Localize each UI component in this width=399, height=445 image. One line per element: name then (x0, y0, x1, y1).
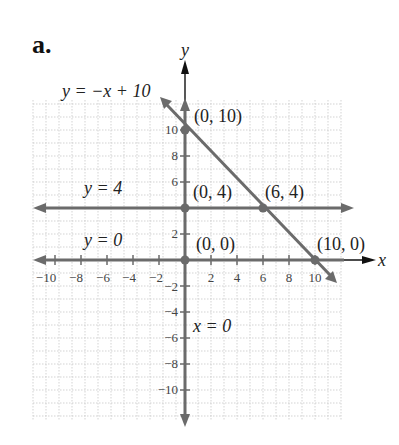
svg-text:−6: −6 (164, 330, 178, 345)
svg-text:10: 10 (309, 270, 322, 285)
svg-text:−4: −4 (164, 304, 178, 319)
svg-text:8: 8 (172, 148, 179, 163)
x-axis-label: x (377, 250, 386, 270)
point-label-0-4: (0, 4) (193, 182, 232, 203)
svg-text:−10: −10 (36, 270, 56, 285)
svg-text:−6: −6 (96, 270, 110, 285)
equation-label-line2: y = 4 (82, 178, 122, 198)
equation-label-line3: y = 0 (82, 230, 122, 250)
x-tick-labels: −10 −8 −6 −4 −2 2 4 6 8 10 (36, 270, 322, 285)
svg-text:−2: −2 (149, 270, 163, 285)
svg-text:−2: −2 (164, 279, 178, 294)
svg-text:2: 2 (208, 270, 215, 285)
x-axis-arrow-icon (362, 256, 376, 264)
svg-text:10: 10 (165, 122, 178, 137)
point-label-6-4: (6, 4) (265, 182, 304, 203)
point-label-10-0: (10, 0) (317, 234, 365, 255)
svg-text:8: 8 (286, 270, 293, 285)
svg-text:−10: −10 (158, 382, 178, 397)
graph-lines (42, 105, 344, 418)
equation-label-line4: x = 0 (192, 316, 231, 336)
svg-text:4: 4 (234, 270, 241, 285)
coordinate-plane: −10 −8 −6 −4 −2 2 4 6 8 10 10 8 6 2 −2 −… (0, 0, 399, 445)
point-label-0-10: (0, 10) (194, 106, 242, 127)
svg-text:−8: −8 (164, 356, 178, 371)
svg-text:−4: −4 (122, 270, 136, 285)
svg-text:6: 6 (260, 270, 267, 285)
point-label-0-0: (0, 0) (196, 234, 235, 255)
y-axis-label: y (179, 40, 189, 60)
svg-text:2: 2 (172, 226, 179, 241)
svg-text:−8: −8 (69, 270, 83, 285)
svg-text:6: 6 (172, 174, 179, 189)
equation-label-line1: y = −x + 10 (60, 81, 150, 101)
line-y-equals-neg-x-plus-10 (167, 105, 330, 275)
y-axis-arrow-icon (181, 60, 189, 74)
